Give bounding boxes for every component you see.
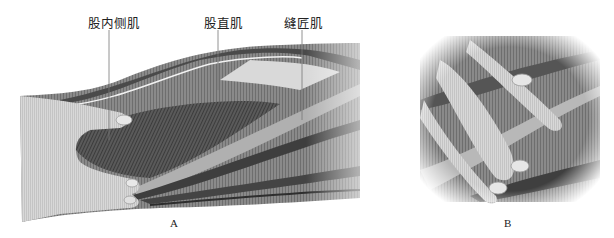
panel-label-a: A (170, 217, 178, 229)
panel-label-b: B (504, 217, 511, 229)
annotation-sartorius: 缝匠肌 (284, 13, 323, 32)
annotation-vastus-medialis: 股内侧肌 (88, 13, 140, 32)
panel-a-illustration (0, 0, 614, 238)
anatomy-figure: 股内侧肌 股直肌 缝匠肌 A B (0, 0, 614, 238)
panel-b-illustration (420, 36, 600, 203)
annotation-rectus-femoris: 股直肌 (204, 13, 243, 32)
